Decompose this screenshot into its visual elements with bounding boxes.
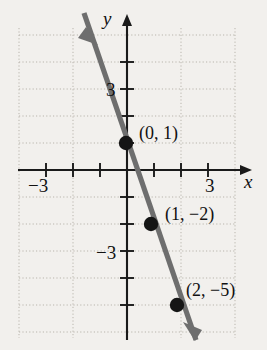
y-tick-label-3: 3 (106, 80, 116, 99)
data-point-0-1 (119, 136, 133, 150)
point-label-1-neg2: (1, −2) (165, 205, 214, 223)
x-tick-label-neg3: −3 (28, 176, 48, 195)
point-label-2-neg5: (2, −5) (186, 281, 235, 299)
y-tick-label-neg3: −3 (96, 243, 116, 262)
coordinate-plane-figure: y x 3 −3 −3 3 (0, 1) (1, −2) (2, −5) (0, 0, 267, 350)
x-axis-label: x (244, 172, 252, 191)
data-point-1-neg2 (144, 217, 158, 231)
x-tick-label-3: 3 (205, 176, 215, 195)
data-point-2-neg5 (170, 298, 184, 312)
point-label-0-1: (0, 1) (139, 124, 178, 142)
y-axis-label: y (103, 9, 111, 28)
